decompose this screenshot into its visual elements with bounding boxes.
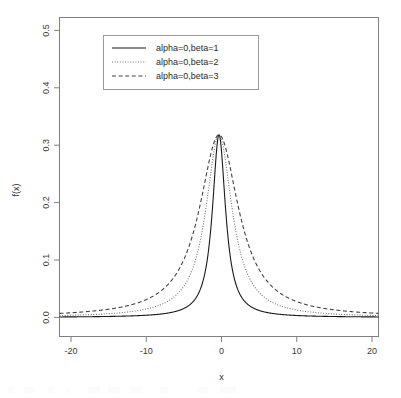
- legend: alpha=0,beta=1 alpha=0,beta=2 alpha=0,be…: [104, 36, 259, 90]
- x-tick-label: 10: [292, 346, 302, 356]
- y-tick-label: 0.1: [41, 254, 51, 267]
- x-tick-label: 20: [367, 346, 377, 356]
- y-tick-label: 0.3: [41, 139, 51, 152]
- y-axis-title: f(x): [11, 184, 21, 197]
- y-tick-label: 0.2: [41, 196, 51, 209]
- x-tick-label: -20: [64, 346, 77, 356]
- x-tick-label: 0: [219, 346, 224, 356]
- y-tick-label: 0.4: [41, 82, 51, 95]
- x-tick-label: -10: [140, 346, 153, 356]
- legend-label: alpha=0,beta=3: [156, 71, 219, 81]
- chart-container: 0.0 0.1 0.2 0.3 0.4 0.5: [0, 0, 401, 398]
- legend-label: alpha=0,beta=2: [156, 57, 219, 67]
- y-tick-label: 0.5: [41, 24, 51, 37]
- legend-label: alpha=0,beta=1: [156, 43, 219, 53]
- y-tick-label: 0.0: [41, 311, 51, 324]
- x-axis-title: x: [219, 372, 224, 382]
- cauchy-density-plot: 0.0 0.1 0.2 0.3 0.4 0.5: [0, 0, 401, 398]
- scan-artifact: [8, 387, 258, 393]
